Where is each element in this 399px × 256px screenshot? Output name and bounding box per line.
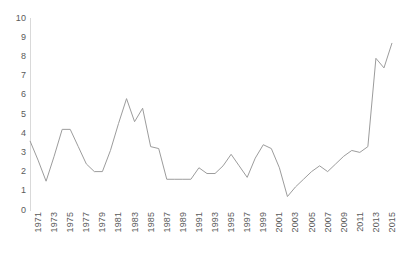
x-tick-label: 1983 <box>131 212 140 232</box>
x-tick-label: 1995 <box>227 212 236 232</box>
x-tick-label: 2001 <box>275 212 284 232</box>
y-tick-label: 3 <box>2 148 26 157</box>
y-tick-label: 0 <box>2 206 26 215</box>
x-tick-label: 1989 <box>179 212 188 232</box>
plot-area <box>30 18 392 210</box>
x-tick-label: 1999 <box>259 212 268 232</box>
x-tick-label: 1979 <box>98 212 107 232</box>
x-tick-label: 1991 <box>195 212 204 232</box>
x-axis: 1971197319751977197919811983198519871989… <box>30 212 392 256</box>
x-tick-label: 1975 <box>66 212 75 232</box>
x-tick-label: 1981 <box>114 212 123 232</box>
x-tick-label: 2011 <box>356 212 365 232</box>
x-tick-label: 1987 <box>163 212 172 232</box>
y-tick-label: 2 <box>2 167 26 176</box>
x-tick-label: 2015 <box>388 212 397 232</box>
x-tick-label: 2009 <box>340 212 349 232</box>
x-tick-label: 2005 <box>308 212 317 232</box>
y-tick-label: 7 <box>2 71 26 80</box>
x-tick-label: 2013 <box>372 212 381 232</box>
y-tick-label: 1 <box>2 186 26 195</box>
y-tick-label: 4 <box>2 129 26 138</box>
y-tick-label: 10 <box>2 14 26 23</box>
x-tick-label: 2007 <box>324 212 333 232</box>
x-tick-label: 2003 <box>291 212 300 232</box>
x-tick-label: 1977 <box>82 212 91 232</box>
x-tick-label: 1973 <box>50 212 59 232</box>
x-tick-label: 1993 <box>211 212 220 232</box>
x-tick-label: 1971 <box>34 212 43 232</box>
y-tick-label: 6 <box>2 90 26 99</box>
y-axis: 012345678910 <box>0 0 26 256</box>
y-tick-label: 8 <box>2 52 26 61</box>
y-tick-label: 5 <box>2 110 26 119</box>
series-svg <box>30 18 392 210</box>
x-tick-label: 1997 <box>243 212 252 232</box>
data-series-line <box>30 43 392 197</box>
x-tick-label: 1985 <box>147 212 156 232</box>
y-tick-label: 9 <box>2 33 26 42</box>
line-chart: 012345678910 197119731975197719791981198… <box>0 0 399 256</box>
